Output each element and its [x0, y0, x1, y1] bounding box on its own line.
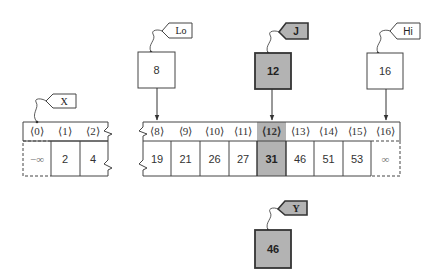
- binary-search-diagram: ⟨0⟩ ⟨1⟩ ⟨2⟩ −∞ 2 4 X ⟨8⟩ ⟨9⟩ ⟨10⟩: [0, 0, 446, 279]
- cell-value: 26: [208, 153, 220, 165]
- variable-value: 46: [267, 243, 279, 255]
- index-label: ⟨1⟩: [58, 125, 72, 137]
- index-label: ⟨14⟩: [319, 125, 338, 137]
- variable-value: 16: [379, 65, 391, 77]
- index-label-highlighted: ⟨12⟩: [262, 125, 281, 137]
- cell-value: 21: [179, 153, 191, 165]
- cell-value: 4: [90, 153, 96, 165]
- variable-y: Y 46: [255, 201, 307, 268]
- index-label: ⟨0⟩: [30, 125, 44, 137]
- array-name: X: [60, 96, 68, 107]
- index-label: ⟨9⟩: [179, 125, 193, 137]
- variable-hi: Hi 16: [367, 23, 420, 120]
- index-label: ⟨10⟩: [205, 125, 224, 137]
- cell-value: 27: [237, 153, 249, 165]
- variable-name: J: [293, 26, 299, 37]
- array-left-segment: ⟨0⟩ ⟨1⟩ ⟨2⟩ −∞ 2 4: [23, 122, 112, 176]
- variable-lo: Lo 8: [138, 23, 192, 120]
- variable-name: Lo: [175, 25, 186, 36]
- cell-value: 46: [294, 153, 306, 165]
- cell-value-highlighted: 31: [265, 153, 277, 165]
- variable-j: J 12: [255, 23, 308, 120]
- cell-value: 51: [322, 153, 334, 165]
- cell-value: 19: [151, 153, 163, 165]
- index-label: ⟨11⟩: [234, 125, 253, 137]
- sentinel-infinity: ∞: [382, 153, 390, 165]
- index-label: ⟨2⟩: [86, 125, 100, 137]
- array-main-segment: ⟨8⟩ ⟨9⟩ ⟨10⟩ ⟨11⟩ ⟨12⟩ ⟨13⟩ ⟨14⟩ ⟨15⟩ ⟨1…: [139, 122, 400, 176]
- cell-value: 2: [62, 153, 68, 165]
- variable-name: Y: [292, 203, 300, 214]
- index-label-sentinel: ⟨16⟩: [376, 125, 395, 137]
- index-label: ⟨13⟩: [291, 125, 310, 137]
- variable-value: 12: [267, 65, 279, 77]
- index-label: ⟨8⟩: [150, 125, 164, 137]
- variable-value: 8: [153, 64, 159, 76]
- variable-name: Hi: [403, 26, 412, 37]
- sentinel-neg-infinity: −∞: [30, 153, 44, 165]
- index-label: ⟨15⟩: [348, 125, 367, 137]
- cell-value: 53: [351, 153, 363, 165]
- array-name-tag: X: [34, 94, 76, 123]
